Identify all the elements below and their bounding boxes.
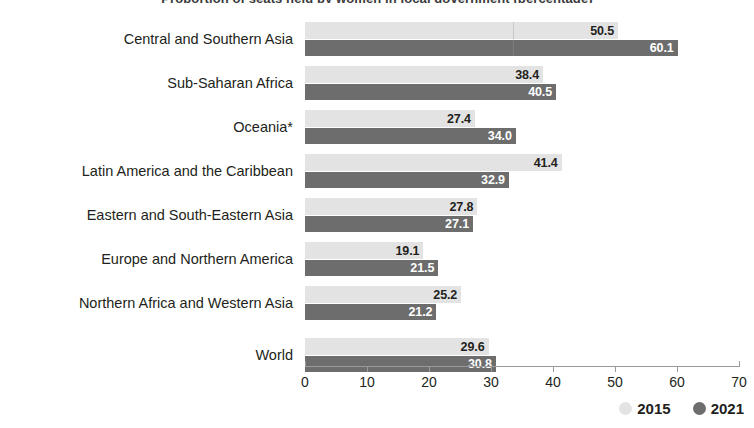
bars-wrapper: 25.221.2 bbox=[305, 284, 754, 322]
axis-tick bbox=[305, 361, 306, 367]
legend-label-2021: 2021 bbox=[711, 400, 744, 417]
circle-icon bbox=[693, 402, 706, 415]
bar-2015[interactable]: 50.5 bbox=[305, 22, 618, 39]
axis-tick bbox=[615, 366, 616, 372]
bar-2015[interactable]: 27.8 bbox=[305, 198, 477, 215]
bar-2021[interactable]: 27.1 bbox=[305, 216, 473, 232]
category-label: Sub-Saharan Africa bbox=[0, 75, 293, 92]
axis-tick bbox=[677, 366, 678, 372]
bar-value-label: 21.2 bbox=[409, 304, 433, 320]
chart-container: Proportion of seats held by women in loc… bbox=[0, 0, 754, 428]
chart-title: Proportion of seats held by women in loc… bbox=[0, 0, 754, 3]
bar-2021[interactable]: 32.9 bbox=[305, 172, 509, 188]
axis-tick-label: 0 bbox=[301, 374, 309, 390]
axis-tick bbox=[491, 366, 492, 372]
bar-value-label: 50.5 bbox=[590, 22, 614, 39]
bar-2021[interactable]: 21.2 bbox=[305, 304, 436, 320]
category-label: Europe and Northern America bbox=[0, 251, 293, 268]
bars-wrapper: 19.121.5 bbox=[305, 240, 754, 278]
category-label: Latin America and the Caribbean bbox=[0, 163, 293, 180]
category-label: Central and Southern Asia bbox=[0, 31, 293, 48]
bar-2021[interactable]: 60.1 bbox=[305, 40, 678, 56]
bar-group: Eastern and South-Eastern Asia27.827.1 bbox=[0, 196, 754, 234]
category-label: Northern Africa and Western Asia bbox=[0, 295, 293, 312]
chart-legend: 2015 2021 bbox=[619, 400, 744, 417]
plot-area: Central and Southern Asia50.560.1Sub-Sah… bbox=[0, 14, 754, 362]
axis-tick-label: 40 bbox=[545, 374, 561, 390]
legend-item-2015[interactable]: 2015 bbox=[619, 400, 670, 417]
bar-2015[interactable]: 29.6 bbox=[305, 338, 489, 355]
legend-item-2021[interactable]: 2021 bbox=[693, 400, 744, 417]
bar-value-label: 40.5 bbox=[528, 84, 552, 100]
bar-value-label: 27.1 bbox=[445, 216, 469, 232]
legend-label-2015: 2015 bbox=[637, 400, 670, 417]
axis-tick-label: 30 bbox=[483, 374, 499, 390]
bar-2015[interactable]: 38.4 bbox=[305, 66, 543, 83]
bars-wrapper: 41.432.9 bbox=[305, 152, 754, 190]
inner-gridline bbox=[513, 22, 514, 56]
bar-value-label: 27.8 bbox=[449, 198, 473, 215]
bar-value-label: 21.5 bbox=[410, 260, 434, 276]
axis-line bbox=[305, 366, 739, 367]
bar-2015[interactable]: 41.4 bbox=[305, 154, 562, 171]
bar-2021[interactable]: 34.0 bbox=[305, 128, 516, 144]
axis-tick-label: 50 bbox=[607, 374, 623, 390]
category-label: Eastern and South-Eastern Asia bbox=[0, 207, 293, 224]
category-label: Oceania* bbox=[0, 119, 293, 136]
circle-icon bbox=[619, 402, 632, 415]
axis-tick-label: 70 bbox=[731, 374, 747, 390]
bar-value-label: 29.6 bbox=[461, 338, 485, 355]
axis-tick-label: 10 bbox=[359, 374, 375, 390]
axis-tick bbox=[367, 366, 368, 372]
bar-group: Central and Southern Asia50.560.1 bbox=[0, 20, 754, 58]
bar-2015[interactable]: 27.4 bbox=[305, 110, 475, 127]
bar-value-label: 41.4 bbox=[534, 154, 558, 171]
category-label: World bbox=[0, 347, 293, 364]
bars-wrapper: 27.827.1 bbox=[305, 196, 754, 234]
bar-value-label: 25.2 bbox=[433, 286, 457, 303]
bar-value-label: 34.0 bbox=[488, 128, 512, 144]
bar-value-label: 60.1 bbox=[650, 40, 674, 56]
bar-2021[interactable]: 21.5 bbox=[305, 260, 438, 276]
bar-group: Sub-Saharan Africa38.440.5 bbox=[0, 64, 754, 102]
bar-group: Oceania*27.434.0 bbox=[0, 108, 754, 146]
bar-2015[interactable]: 25.2 bbox=[305, 286, 461, 303]
bar-value-label: 19.1 bbox=[395, 242, 419, 259]
axis-tick bbox=[553, 366, 554, 372]
bar-group: Northern Africa and Western Asia25.221.2 bbox=[0, 284, 754, 322]
bar-value-label: 38.4 bbox=[515, 66, 539, 83]
bar-2021[interactable]: 40.5 bbox=[305, 84, 556, 100]
bar-group: Latin America and the Caribbean41.432.9 bbox=[0, 152, 754, 190]
bar-value-label: 27.4 bbox=[447, 110, 471, 127]
bars-wrapper: 50.560.1 bbox=[305, 20, 754, 58]
axis-tick bbox=[739, 361, 740, 367]
bar-group: Europe and Northern America19.121.5 bbox=[0, 240, 754, 278]
x-axis: 010203040506070 bbox=[305, 366, 739, 396]
axis-tick-label: 60 bbox=[669, 374, 685, 390]
bars-wrapper: 27.434.0 bbox=[305, 108, 754, 146]
bar-2015[interactable]: 19.1 bbox=[305, 242, 423, 259]
bar-value-label: 32.9 bbox=[481, 172, 505, 188]
axis-tick-label: 20 bbox=[421, 374, 437, 390]
bars-wrapper: 38.440.5 bbox=[305, 64, 754, 102]
axis-tick bbox=[429, 366, 430, 372]
